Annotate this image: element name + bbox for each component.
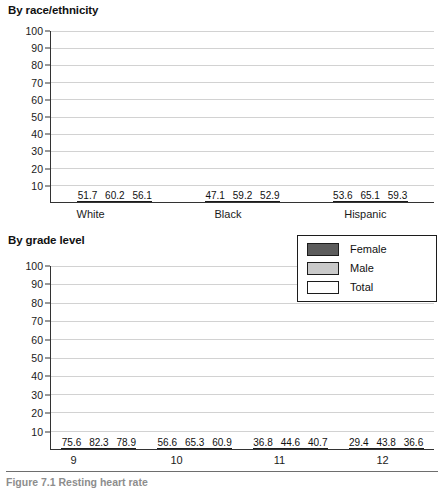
bar-slot: 59.2	[230, 201, 255, 202]
bar-slot: 53.6	[333, 201, 358, 202]
bar-grade-level-11-total[interactable]: 40.7	[303, 448, 328, 449]
legend-item-male[interactable]: Male	[307, 262, 426, 275]
plot-area-race-ethnicity: 51.760.256.147.159.252.953.665.159.3	[50, 31, 434, 203]
chart-panel-race-ethnicity: By race/ethnicity 102030405060708090100 …	[0, 0, 444, 228]
bar-value-label: 36.6	[404, 438, 423, 448]
bar-slot: 78.9	[111, 448, 136, 449]
bar-value-label: 43.8	[376, 438, 395, 448]
bar-slot: 29.4	[349, 448, 374, 449]
chart-title-grade-level: By grade level	[8, 234, 85, 246]
y-tick-label-10: 10	[31, 180, 43, 192]
y-axis-grade-level: 102030405060708090100	[22, 266, 50, 450]
bar-race-ethnicity-Black-male[interactable]: 59.2	[230, 201, 255, 202]
x-axis-label-grade-level-11: 11	[228, 454, 331, 466]
bar-value-label: 51.7	[78, 191, 97, 201]
chart-title-race-ethnicity: By race/ethnicity	[8, 4, 98, 16]
bar-slot: 52.9	[255, 201, 280, 202]
bar-value-label: 59.2	[233, 191, 252, 201]
bar-slot: 56.1	[127, 201, 152, 202]
bar-grade-level-12-total[interactable]: 36.6	[399, 448, 424, 449]
bar-grade-level-11-male[interactable]: 44.6	[278, 448, 303, 449]
bar-slot: 47.1	[205, 201, 230, 202]
x-axis-label-race-ethnicity-Black: Black	[159, 208, 296, 220]
bar-grade-level-9-male[interactable]: 82.3	[86, 448, 111, 449]
bar-race-ethnicity-Hispanic-total[interactable]: 59.3	[383, 201, 408, 202]
legend-label-male: Male	[350, 263, 374, 274]
bar-slot: 51.7	[77, 201, 102, 202]
y-tick-label-50: 50	[31, 111, 43, 123]
bar-slot: 36.6	[399, 448, 424, 449]
bar-value-label: 59.3	[388, 191, 407, 201]
legend-item-total[interactable]: Total	[307, 281, 426, 294]
bar-slot: 60.2	[102, 201, 127, 202]
bar-group-race-ethnicity-White: 51.760.256.1	[51, 31, 179, 202]
figure-caption: Figure 7.1 Resting heart rate	[6, 476, 438, 488]
bar-slot: 44.6	[278, 448, 303, 449]
bar-value-label: 52.9	[260, 191, 279, 201]
bar-slot: 65.1	[358, 201, 383, 202]
y-tick-label-60: 60	[31, 94, 43, 106]
bar-grade-level-12-female[interactable]: 29.4	[349, 448, 374, 449]
plot-race-ethnicity: 102030405060708090100 51.760.256.147.159…	[22, 31, 434, 203]
y-tick-label-60: 60	[31, 334, 43, 346]
bar-race-ethnicity-Hispanic-female[interactable]: 53.6	[333, 201, 358, 202]
bar-race-ethnicity-Black-total[interactable]: 52.9	[255, 201, 280, 202]
y-tick-label-50: 50	[31, 352, 43, 364]
x-axis-labels-grade-level: 9101112	[22, 454, 434, 466]
footer-divider	[6, 471, 438, 472]
bar-value-label: 75.6	[62, 438, 81, 448]
bar-race-ethnicity-Hispanic-male[interactable]: 65.1	[358, 201, 383, 202]
chart-legend: FemaleMaleTotal	[297, 235, 437, 302]
bar-slot: 36.8	[253, 448, 278, 449]
bar-value-label: 53.6	[333, 191, 352, 201]
bar-grade-level-12-male[interactable]: 43.8	[374, 448, 399, 449]
bar-group-race-ethnicity-Black: 47.159.252.9	[179, 31, 307, 202]
bar-value-label: 29.4	[349, 438, 368, 448]
bar-group-race-ethnicity-Hispanic: 53.665.159.3	[306, 31, 434, 202]
bar-value-label: 60.9	[212, 438, 231, 448]
y-axis-race-ethnicity: 102030405060708090100	[22, 31, 50, 203]
y-tick-label-10: 10	[31, 426, 43, 438]
bar-race-ethnicity-White-female[interactable]: 51.7	[77, 201, 102, 202]
y-tick-label-20: 20	[31, 407, 43, 419]
y-tick-label-80: 80	[31, 297, 43, 309]
bar-slot: 65.3	[182, 448, 207, 449]
y-tick-label-40: 40	[31, 370, 43, 382]
legend-swatch-total	[307, 281, 339, 294]
bar-group-grade-level-9: 75.682.378.9	[51, 266, 147, 449]
bar-grade-level-9-female[interactable]: 75.6	[61, 448, 86, 449]
bar-grade-level-11-female[interactable]: 36.8	[253, 448, 278, 449]
bar-slot: 75.6	[61, 448, 86, 449]
y-tick-label-70: 70	[31, 77, 43, 89]
bar-grade-level-10-total[interactable]: 60.9	[207, 448, 232, 449]
bar-value-label: 82.3	[89, 438, 108, 448]
y-tick-label-70: 70	[31, 315, 43, 327]
bar-value-label: 56.6	[158, 438, 177, 448]
bar-slot: 40.7	[303, 448, 328, 449]
x-axis-label-grade-level-9: 9	[22, 454, 125, 466]
bar-value-label: 78.9	[116, 438, 135, 448]
legend-item-female[interactable]: Female	[307, 243, 426, 256]
bar-slot: 82.3	[86, 448, 111, 449]
legend-swatch-male	[307, 262, 339, 275]
bar-grade-level-10-male[interactable]: 65.3	[182, 448, 207, 449]
bar-grade-level-10-female[interactable]: 56.6	[157, 448, 182, 449]
x-axis-label-grade-level-10: 10	[125, 454, 228, 466]
bar-slot: 60.9	[207, 448, 232, 449]
bar-value-label: 65.3	[185, 438, 204, 448]
bar-race-ethnicity-White-total[interactable]: 56.1	[127, 201, 152, 202]
y-tick-label-30: 30	[31, 389, 43, 401]
bar-value-label: 65.1	[360, 191, 379, 201]
x-axis-labels-race-ethnicity: WhiteBlackHispanic	[22, 208, 434, 220]
bar-race-ethnicity-White-male[interactable]: 60.2	[102, 201, 127, 202]
y-tick-label-100: 100	[25, 260, 43, 272]
bar-race-ethnicity-Black-female[interactable]: 47.1	[205, 201, 230, 202]
bar-value-label: 36.8	[253, 438, 272, 448]
bar-group-grade-level-10: 56.665.360.9	[147, 266, 243, 449]
bar-grade-level-9-total[interactable]: 78.9	[111, 448, 136, 449]
x-axis-label-grade-level-12: 12	[331, 454, 434, 466]
bar-value-label: 40.7	[308, 438, 327, 448]
y-tick-label-100: 100	[25, 25, 43, 37]
bar-value-label: 47.1	[205, 191, 224, 201]
bar-slot: 56.6	[157, 448, 182, 449]
